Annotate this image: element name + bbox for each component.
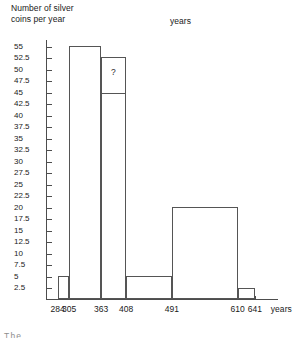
x-tick-label: 641 xyxy=(248,304,262,314)
y-axis-title: Number of silver coins per year xyxy=(11,3,74,25)
y-tick: 30 xyxy=(47,162,52,163)
y-tick-label: 52.5 xyxy=(14,53,40,62)
bar xyxy=(126,276,172,299)
bar xyxy=(172,207,238,299)
bar xyxy=(238,288,255,300)
y-tick: 25 xyxy=(47,185,52,186)
y-tick: 37.5 xyxy=(47,127,52,128)
y-tick-label: 47.5 xyxy=(14,76,40,85)
y-tick-label: 55 xyxy=(14,42,40,51)
y-tick-label: 27.5 xyxy=(14,168,40,177)
y-tick: 35 xyxy=(47,139,52,140)
y-tick-label: 10 xyxy=(14,249,40,258)
y-tick: 55 xyxy=(47,47,52,48)
y-tick-label: 17.5 xyxy=(14,214,40,223)
x-tick-label: 408 xyxy=(119,304,133,314)
top-years-label: years xyxy=(170,16,191,26)
y-tick: 45 xyxy=(47,93,52,94)
y-axis-title-line-1: Number of silver xyxy=(11,3,74,14)
y-tick-label: 2.5 xyxy=(14,283,40,292)
x-tick-label: 491 xyxy=(165,304,179,314)
y-tick-label: 42.5 xyxy=(14,99,40,108)
bar xyxy=(58,276,70,299)
y-tick: 52.5 xyxy=(47,58,52,59)
y-tick-label: 37.5 xyxy=(14,122,40,131)
cut-off-footer-text: The xyxy=(0,331,299,338)
y-tick: 17.5 xyxy=(47,219,52,220)
histogram-chart: Number of silver coins per year years 2.… xyxy=(0,0,299,338)
y-tick: 10 xyxy=(47,254,52,255)
y-tick: 12.5 xyxy=(47,242,52,243)
question-mark-annotation: ? xyxy=(111,68,116,77)
y-tick-label: 32.5 xyxy=(14,145,40,154)
x-tick xyxy=(255,296,256,300)
x-axis-line xyxy=(46,299,278,300)
x-tick-label: 305 xyxy=(62,304,76,314)
y-tick: 50 xyxy=(47,70,52,71)
y-tick: 5 xyxy=(47,277,52,278)
y-axis-title-line-2: coins per year xyxy=(11,14,74,25)
y-tick-label: 15 xyxy=(14,226,40,235)
y-tick-label: 5 xyxy=(14,272,40,281)
bar xyxy=(69,46,101,299)
plot-area: 2.557.51012.51517.52022.52527.53032.5353… xyxy=(46,40,278,300)
y-tick: 47.5 xyxy=(47,81,52,82)
y-tick-label: 30 xyxy=(14,157,40,166)
y-tick-label: 22.5 xyxy=(14,191,40,200)
y-tick: 22.5 xyxy=(47,196,52,197)
y-tick-label: 12.5 xyxy=(14,237,40,246)
y-tick-label: 45 xyxy=(14,88,40,97)
x-tick-label: 363 xyxy=(94,304,108,314)
y-axis-line xyxy=(46,40,47,300)
y-tick-label: 50 xyxy=(14,65,40,74)
y-tick: 42.5 xyxy=(47,104,52,105)
y-tick: 2.5 xyxy=(47,288,52,289)
y-tick: 15 xyxy=(47,231,52,232)
x-axis-units-label: years xyxy=(271,304,292,314)
y-tick: 20 xyxy=(47,208,52,209)
y-tick: 27.5 xyxy=(47,173,52,174)
y-tick-label: 20 xyxy=(14,203,40,212)
y-tick-label: 7.5 xyxy=(14,260,40,269)
x-tick-label: 610 xyxy=(231,304,245,314)
y-tick-label: 40 xyxy=(14,111,40,120)
value-marker-line xyxy=(101,93,125,94)
y-tick: 32.5 xyxy=(47,150,52,151)
y-tick-label: 35 xyxy=(14,134,40,143)
y-tick-label: 25 xyxy=(14,180,40,189)
y-tick: 7.5 xyxy=(47,265,52,266)
y-tick: 40 xyxy=(47,116,52,117)
